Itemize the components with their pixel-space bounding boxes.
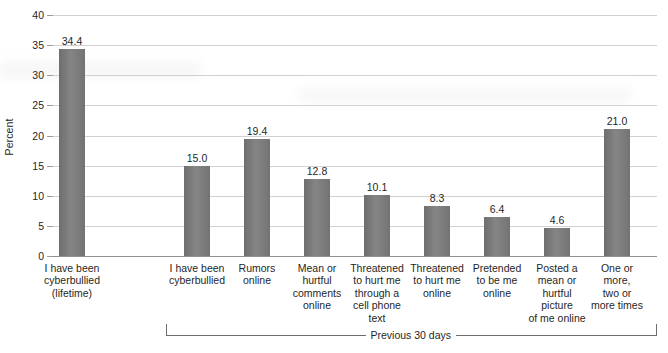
gridline-20	[51, 136, 657, 137]
y-tick-mark-5	[47, 226, 53, 227]
bar-value-label-2: 19.4	[237, 125, 277, 137]
x-axis-label-line: more,	[587, 274, 647, 286]
bracket-left-tick	[166, 324, 167, 336]
x-axis-label-line: online	[227, 274, 287, 286]
y-tick-label-15: 15	[22, 160, 44, 172]
x-axis-label-line: online	[287, 299, 347, 311]
x-axis-label-line: One or	[587, 262, 647, 274]
y-tick-label-20: 20	[22, 130, 44, 142]
x-axis-label-line: cyberbullied	[42, 274, 102, 286]
x-axis-label-5: Threatenedto hurt meonline	[407, 262, 467, 299]
gridline-25	[51, 105, 657, 106]
x-axis-label-0: I have beencyberbullied(lifetime)	[42, 262, 102, 299]
x-axis-label-line: Threatened	[347, 262, 407, 274]
y-tick-mark-20	[47, 136, 53, 137]
y-tick-mark-10	[47, 196, 53, 197]
x-axis-label-line: more times	[587, 299, 647, 311]
x-axis-label-line: I have been	[42, 262, 102, 274]
bar-7	[544, 228, 570, 256]
bar-value-label-7: 4.6	[537, 214, 577, 226]
bar-2	[244, 139, 270, 256]
x-axis-label-line: hurtful	[287, 274, 347, 286]
x-axis-label-line: Mean or	[287, 262, 347, 274]
x-axis-label-line: Threatened	[407, 262, 467, 274]
bar-value-label-0: 34.4	[52, 35, 92, 47]
bar-6	[484, 217, 510, 256]
y-tick-label-25: 25	[22, 99, 44, 111]
y-tick-label-35: 35	[22, 39, 44, 51]
x-axis-label-line: to hurt me	[407, 274, 467, 286]
y-tick-mark-40	[47, 15, 53, 16]
x-axis-label-line: (lifetime)	[42, 287, 102, 299]
x-axis-label-line: Posted a	[527, 262, 587, 274]
x-axis-label-line: cyberbullied	[167, 274, 227, 286]
x-axis-label-line: comments	[287, 287, 347, 299]
bracket-label: Previous 30 days	[366, 329, 457, 341]
x-axis-label-line: Pretended	[467, 262, 527, 274]
x-axis-label-line: picture	[527, 299, 587, 311]
x-axis-label-4: Threatenedto hurt methrough acell phonet…	[347, 262, 407, 324]
gridline-0	[51, 256, 657, 257]
gridline-10	[51, 196, 657, 197]
bar-value-label-8: 21.0	[597, 115, 637, 127]
bar-value-label-1: 15.0	[177, 152, 217, 164]
x-axis-label-6: Pretendedto be meonline	[467, 262, 527, 299]
gridline-35	[51, 45, 657, 46]
x-axis-label-line: text	[347, 312, 407, 324]
y-tick-mark-0	[47, 256, 53, 257]
y-tick-label-0: 0	[22, 250, 44, 262]
bar-chart: Percent 0510152025303540 34.415.019.412.…	[0, 0, 668, 353]
x-axis-label-line: two or	[587, 287, 647, 299]
x-axis-label-7: Posted amean orhurtfulpictureof me onlin…	[527, 262, 587, 324]
bar-3	[304, 179, 330, 256]
bar-4	[364, 195, 390, 256]
y-tick-mark-25	[47, 105, 53, 106]
bar-5	[424, 206, 450, 256]
gridline-30	[51, 75, 657, 76]
x-axis-label-8: One ormore,two ormore times	[587, 262, 647, 312]
y-tick-mark-15	[47, 166, 53, 167]
gridline-40	[51, 15, 657, 16]
x-axis-label-1: I have beencyberbullied	[167, 262, 227, 287]
y-tick-label-10: 10	[22, 190, 44, 202]
gridline-15	[51, 166, 657, 167]
bar-0	[59, 49, 85, 256]
bar-value-label-4: 10.1	[357, 181, 397, 193]
scan-artifact	[300, 88, 630, 102]
bar-value-label-3: 12.8	[297, 165, 337, 177]
x-axis-label-line: through a	[347, 287, 407, 299]
x-axis-label-3: Mean orhurtfulcommentsonline	[287, 262, 347, 312]
bracket-right-tick	[656, 324, 657, 336]
y-axis-title: Percent	[3, 107, 15, 167]
x-axis-label-line: hurtful	[527, 287, 587, 299]
x-axis-label-line: cell phone	[347, 299, 407, 311]
x-axis-label-line: to be me	[467, 274, 527, 286]
x-axis-label-line: Rumors	[227, 262, 287, 274]
y-tick-label-5: 5	[22, 220, 44, 232]
x-axis-label-line: to hurt me	[347, 274, 407, 286]
bar-8	[604, 129, 630, 256]
y-tick-label-30: 30	[22, 69, 44, 81]
x-axis-label-2: Rumorsonline	[227, 262, 287, 287]
bar-1	[184, 166, 210, 256]
y-tick-label-40: 40	[22, 9, 44, 21]
x-axis-label-line: I have been	[167, 262, 227, 274]
bar-value-label-5: 8.3	[417, 192, 457, 204]
x-axis-label-line: online	[407, 287, 467, 299]
x-axis-label-line: online	[467, 287, 527, 299]
x-axis-label-line: of me online	[527, 312, 587, 324]
bar-value-label-6: 6.4	[477, 203, 517, 215]
y-tick-mark-30	[47, 75, 53, 76]
x-axis-label-line: mean or	[527, 274, 587, 286]
